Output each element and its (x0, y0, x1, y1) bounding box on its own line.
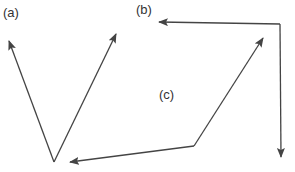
vector-b2-arrow (280, 24, 281, 157)
vector-a1-arrow (9, 41, 54, 162)
vector-b1-arrow (159, 22, 280, 24)
vector-diagram-canvas (0, 0, 295, 172)
vector-c1-arrow (194, 38, 263, 146)
panel-b (159, 22, 281, 157)
panel-a (9, 34, 116, 162)
vector-a2-arrow (54, 34, 116, 162)
vector-c2-arrow (70, 146, 194, 162)
panel-c (70, 38, 263, 162)
